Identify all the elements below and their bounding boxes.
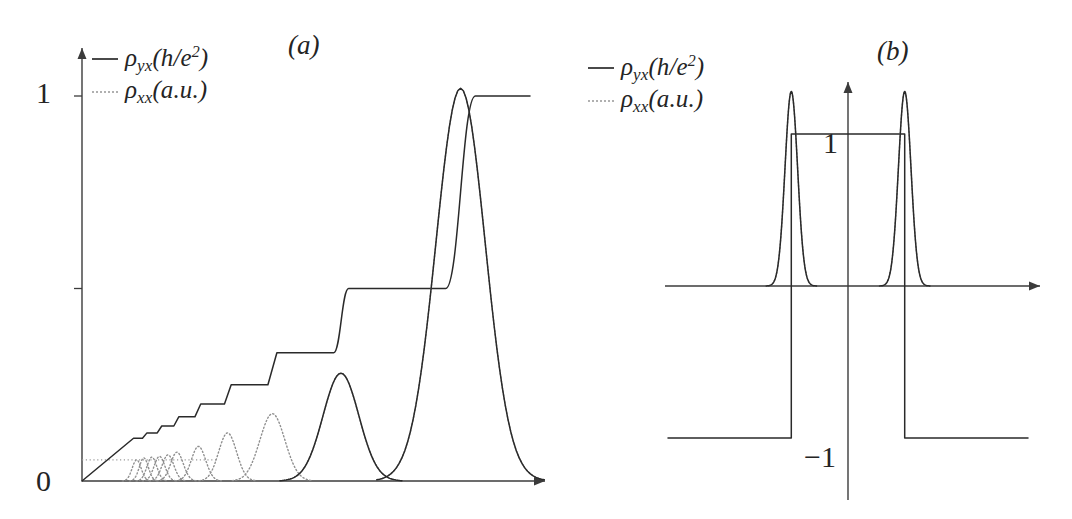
panel-b: 1 −1 (b) ρyx(h/e2) ρxx(a.u.) bbox=[536, 0, 1072, 519]
figure-root: 1 0 (a) ρyx(h/e2) ρxx(a.u.) 1 −1 (b) ρyx… bbox=[0, 0, 1072, 519]
panel-a-curve-rho-yx bbox=[82, 96, 530, 481]
panel-b-legend-label-rho-xx: ρxx(a.u.) bbox=[621, 85, 703, 117]
panel-a-legend-label-rho-xx: ρxx(a.u.) bbox=[125, 76, 207, 108]
panel-a-ytick-label-1: 1 bbox=[36, 78, 51, 108]
panel-a: 1 0 (a) ρyx(h/e2) ρxx(a.u.) bbox=[0, 0, 536, 519]
panel-a-ytick-label-0: 0 bbox=[36, 466, 51, 496]
panel-a-x-axis bbox=[82, 477, 545, 486]
panel-a-y-axis bbox=[78, 48, 87, 481]
panel-b-y-axis bbox=[844, 82, 853, 500]
panel-a-legend-label-rho-yx: ρyx(h/e2) bbox=[125, 43, 208, 76]
dotted-line-icon bbox=[92, 91, 118, 93]
panel-a-plot bbox=[0, 0, 536, 519]
panel-a-peak-envelope bbox=[280, 88, 544, 480]
panel-b-legend: ρyx(h/e2) ρxx(a.u.) bbox=[588, 53, 704, 116]
panel-b-ytick-label-neg1: −1 bbox=[804, 442, 836, 472]
panel-b-legend-item-rho-xx: ρxx(a.u.) bbox=[588, 86, 704, 116]
panel-a-tag: (a) bbox=[288, 32, 319, 59]
panel-b-x-axis bbox=[665, 282, 1040, 291]
panel-a-legend: ρyx(h/e2) ρxx(a.u.) bbox=[92, 44, 208, 107]
solid-line-icon bbox=[92, 58, 118, 60]
panel-b-legend-item-rho-yx: ρyx(h/e2) bbox=[588, 53, 704, 83]
panel-a-legend-item-rho-xx: ρxx(a.u.) bbox=[92, 77, 208, 107]
panel-a-curve-rho-xx bbox=[122, 88, 539, 481]
panel-b-ytick-label-pos1: 1 bbox=[823, 128, 838, 158]
solid-line-icon bbox=[588, 67, 614, 69]
dotted-line-icon bbox=[588, 100, 614, 102]
panel-a-legend-item-rho-yx: ρyx(h/e2) bbox=[92, 44, 208, 74]
panel-b-tag: (b) bbox=[877, 38, 908, 65]
panel-b-legend-label-rho-yx: ρyx(h/e2) bbox=[621, 52, 704, 85]
